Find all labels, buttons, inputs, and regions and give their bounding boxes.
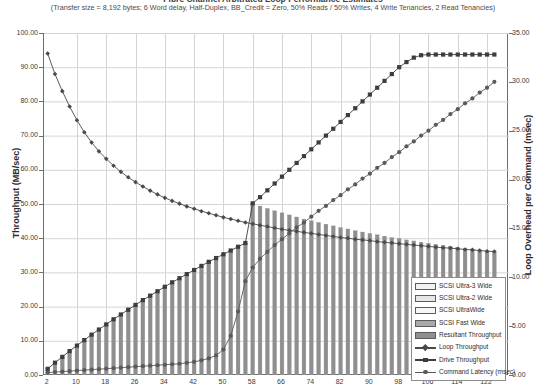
data-point-marker <box>75 369 79 373</box>
data-point-marker <box>126 308 130 312</box>
legend-line-marker-icon <box>415 356 436 363</box>
data-point-marker <box>207 260 211 264</box>
y2-axis-tick-mark <box>509 82 513 83</box>
bar <box>163 287 167 375</box>
data-point-marker <box>221 347 225 351</box>
legend-item-label: Drive Throughput <box>439 357 489 364</box>
y2-axis-tick-label: 30.00 <box>512 77 546 84</box>
data-point-marker <box>177 201 182 206</box>
data-point-marker <box>463 101 467 105</box>
data-point-marker <box>214 256 218 260</box>
data-point-marker <box>368 92 372 96</box>
y-axis-tick-label: 50.00 <box>2 200 38 207</box>
bar <box>302 219 306 375</box>
x-axis-tick-label: 34 <box>149 378 179 385</box>
data-point-marker <box>470 96 474 100</box>
bar <box>405 240 409 375</box>
legend-item-label: SCSI Fast Wide <box>439 320 485 327</box>
data-point-marker <box>265 188 269 192</box>
data-point-marker <box>46 370 50 374</box>
data-point-marker <box>397 150 401 154</box>
data-point-marker <box>492 80 496 84</box>
data-point-marker <box>155 192 160 197</box>
data-point-marker <box>426 129 430 133</box>
chart-subtitle: (Transfer size = 8,192 bytes; 6 Word del… <box>0 3 546 12</box>
y2-axis-tick-label: 20.00 <box>512 175 546 182</box>
data-point-marker <box>448 52 452 56</box>
data-point-marker <box>46 367 50 371</box>
data-point-marker <box>485 52 489 56</box>
x-axis-tick-label: 2 <box>32 378 62 385</box>
y2-axis-tick-label: 0.00 <box>512 371 546 378</box>
bar <box>148 296 152 375</box>
data-point-marker <box>111 317 115 321</box>
data-point-marker <box>360 99 364 103</box>
legend-item-label: SCSI Ultra-3 Wide <box>439 283 492 290</box>
data-point-marker <box>419 134 423 138</box>
data-point-marker <box>426 52 430 56</box>
data-point-marker <box>382 79 386 83</box>
legend-item-label: Resultant Throughput <box>439 332 501 339</box>
data-point-marker <box>331 127 335 131</box>
data-point-marker <box>104 367 108 371</box>
legend-marker-icon <box>423 370 428 375</box>
data-point-marker <box>75 118 80 123</box>
y-axis-tick-label: 30.00 <box>2 268 38 275</box>
data-point-marker <box>148 294 152 298</box>
data-point-marker <box>375 86 379 90</box>
bar <box>361 232 365 375</box>
bar <box>156 291 160 375</box>
data-point-marker <box>67 104 72 109</box>
legend-item: SCSI Ultra-2 Wide <box>415 292 503 304</box>
bar <box>178 278 182 375</box>
bar <box>375 235 379 375</box>
data-point-marker <box>229 248 233 252</box>
data-point-marker <box>419 53 423 57</box>
bar <box>170 282 174 375</box>
data-point-marker <box>185 272 189 276</box>
data-point-marker <box>221 215 226 220</box>
data-point-marker <box>206 211 211 216</box>
data-point-marker <box>463 52 467 56</box>
y-axis-tick-label: 0.00 <box>2 371 38 378</box>
legend-item: Command Latency (msec) <box>415 366 503 378</box>
data-point-marker <box>89 333 93 337</box>
data-point-marker <box>478 91 482 95</box>
data-point-marker <box>456 107 460 111</box>
bar <box>317 222 321 375</box>
legend-swatch-icon <box>415 320 436 327</box>
data-point-marker <box>251 201 255 205</box>
x-axis-tick-label: 90 <box>354 378 384 385</box>
data-point-marker <box>207 356 211 360</box>
data-point-marker <box>236 245 240 249</box>
data-point-marker <box>390 155 394 159</box>
data-point-marker <box>353 182 357 186</box>
data-point-marker <box>280 237 284 241</box>
data-point-marker <box>338 120 342 124</box>
data-point-marker <box>68 349 72 353</box>
legend-swatch-icon <box>415 295 436 302</box>
chart-root: Fibre Channel Arbitrated Loop Performanc… <box>0 0 546 392</box>
x-axis-tick-label: 74 <box>295 378 325 385</box>
data-point-marker <box>236 218 241 223</box>
bar <box>331 226 335 375</box>
data-point-marker <box>228 217 233 222</box>
data-point-marker <box>119 366 123 370</box>
x-axis-tick-label: 10 <box>61 378 91 385</box>
data-point-marker <box>185 361 189 365</box>
y-axis-tick-label: 100.00 <box>2 29 38 36</box>
y-axis-tick-label: 20.00 <box>2 302 38 309</box>
y2-axis-tick-label: 35.00 <box>512 29 546 36</box>
bar <box>397 239 401 375</box>
data-point-marker <box>170 199 175 204</box>
data-point-marker <box>360 176 364 180</box>
data-point-marker <box>177 276 181 280</box>
bar <box>324 224 328 375</box>
bar <box>273 211 277 375</box>
data-point-marker <box>412 139 416 143</box>
data-point-marker <box>163 196 168 201</box>
legend-line-marker-icon <box>415 369 436 376</box>
data-point-marker <box>375 166 379 170</box>
bar <box>390 238 394 375</box>
data-point-marker <box>148 364 152 368</box>
